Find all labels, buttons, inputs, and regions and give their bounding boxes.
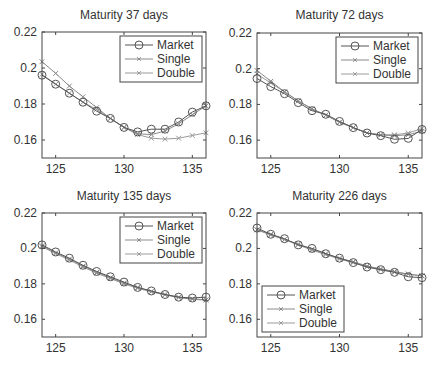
panel-maturity-72: Maturity 72 days1251301350.160.180.20.22… — [229, 8, 426, 176]
x-tick-label: 125 — [261, 341, 281, 355]
x-tick-label: 135 — [182, 162, 202, 176]
y-tick-label: 0.22 — [229, 26, 253, 40]
series-line — [257, 79, 422, 140]
x-marker — [67, 84, 72, 89]
x-tick-label: 130 — [114, 341, 134, 355]
x-tick-label: 135 — [398, 162, 418, 176]
y-tick-label: 0.2 — [235, 62, 252, 76]
x-tick-label: 130 — [329, 162, 349, 176]
y-tick-label: 0.16 — [14, 312, 38, 326]
legend-label: Market — [157, 38, 194, 52]
y-tick-label: 0.16 — [14, 133, 38, 147]
x-tick-label: 130 — [114, 162, 134, 176]
y-tick-label: 0.18 — [14, 97, 38, 111]
panel-title: Maturity 72 days — [295, 8, 383, 22]
y-tick-label: 0.16 — [229, 133, 253, 147]
y-tick-label: 0.22 — [229, 206, 253, 220]
legend-label: Market — [157, 219, 194, 233]
x-tick-label: 125 — [261, 162, 281, 176]
y-tick-label: 0.2 — [235, 241, 252, 255]
y-tick-label: 0.22 — [14, 25, 38, 39]
panel-maturity-135: Maturity 135 days1251301350.160.180.20.2… — [14, 189, 210, 355]
panel-maturity-226: Maturity 226 days1251301350.160.180.20.2… — [229, 189, 426, 355]
y-tick-label: 0.22 — [14, 206, 38, 220]
legend-label: Single — [373, 53, 407, 67]
figure: Maturity 37 days1251301350.160.180.20.22… — [0, 0, 438, 372]
series-market — [253, 75, 426, 144]
y-tick-label: 0.18 — [229, 97, 253, 111]
y-tick-label: 0.16 — [229, 312, 253, 326]
legend-label: Double — [373, 67, 411, 81]
legend: MarketSingleDouble — [120, 217, 202, 263]
x-tick-label: 125 — [46, 162, 66, 176]
legend: MarketSingleDouble — [262, 286, 344, 332]
x-tick-label: 125 — [46, 341, 66, 355]
legend-label: Single — [157, 233, 191, 247]
legend-label: Single — [157, 52, 191, 66]
y-tick-label: 0.2 — [20, 61, 37, 75]
y-tick-label: 0.18 — [229, 277, 253, 291]
panel-title: Maturity 135 days — [77, 189, 172, 203]
legend-label: Double — [299, 316, 337, 330]
panel-title: Maturity 226 days — [292, 189, 387, 203]
legend: MarketSingleDouble — [336, 37, 418, 83]
panel-title: Maturity 37 days — [80, 8, 168, 22]
x-tick-label: 135 — [398, 341, 418, 355]
legend-label: Double — [157, 66, 195, 80]
series-double — [255, 227, 425, 278]
legend-label: Market — [299, 288, 336, 302]
panel-maturity-37: Maturity 37 days1251301350.160.180.20.22… — [14, 8, 210, 176]
x-marker — [53, 71, 58, 76]
y-tick-label: 0.18 — [14, 277, 38, 291]
legend-label: Single — [299, 302, 333, 316]
series-single — [255, 227, 425, 278]
y-tick-label: 0.2 — [20, 241, 37, 255]
x-tick-label: 130 — [329, 341, 349, 355]
x-tick-label: 135 — [182, 341, 202, 355]
legend: MarketSingleDouble — [120, 36, 202, 82]
legend-label: Double — [157, 247, 195, 261]
legend-label: Market — [373, 39, 410, 53]
